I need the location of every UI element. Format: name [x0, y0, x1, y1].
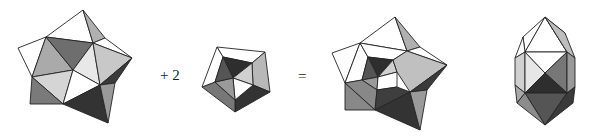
polyhedron-a	[18, 10, 132, 123]
equation-diagram	[0, 0, 589, 140]
polyhedron-elongated	[515, 17, 575, 125]
equals-sign: =	[298, 68, 306, 85]
plus-two-label: + 2	[160, 67, 180, 84]
polyhedron-combined	[332, 17, 447, 130]
polyhedron-b	[202, 47, 270, 112]
